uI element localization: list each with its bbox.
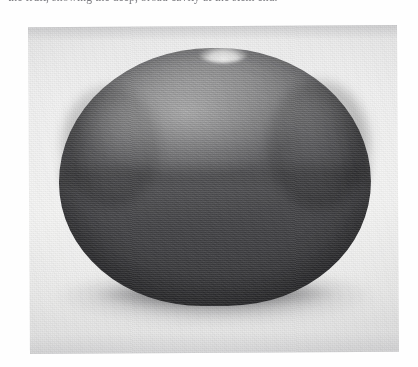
- caption-text: the fruit, showing the deep, broad cavit…: [8, 0, 412, 3]
- fruit-right-shoulder-shading: [268, 81, 369, 210]
- clipped-caption-line: the fruit, showing the deep, broad cavit…: [0, 0, 418, 9]
- fruit-body: [58, 47, 372, 307]
- fruit-equator-band: [59, 159, 371, 191]
- photo-bottom-shading: [28, 332, 399, 354]
- photograph: [28, 25, 399, 354]
- fruit-stem-notch: [196, 39, 250, 63]
- scanned-page: the fruit, showing the deep, broad cavit…: [0, 0, 418, 367]
